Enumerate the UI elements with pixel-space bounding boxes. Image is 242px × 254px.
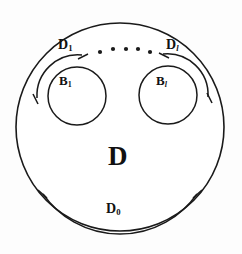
label-hole-right-base: B [156, 73, 165, 88]
label-outer-boundary-base: D [106, 201, 116, 216]
ellipsis-dot [124, 47, 128, 51]
figure-canvas: D1 Dl B1 Bl D D0 [0, 0, 242, 254]
hole-circle-left [48, 67, 106, 125]
diagram-svg [0, 0, 242, 254]
label-hole-right-sub: l [165, 80, 167, 89]
label-boundary-left-base: D [58, 37, 68, 52]
label-outer-boundary-sub: 0 [116, 207, 120, 217]
label-boundary-left: D1 [58, 38, 72, 53]
label-boundary-right-base: D [166, 37, 176, 52]
hole-circle-right [139, 66, 197, 124]
label-boundary-left-sub: 1 [68, 43, 72, 53]
ellipsis-dot [98, 50, 102, 54]
ellipsis-dot [148, 50, 152, 54]
label-outer-boundary: D0 [106, 202, 120, 217]
ellipsis-dot [136, 47, 140, 51]
label-hole-left-base: B [59, 73, 68, 88]
label-hole-left: B1 [59, 74, 72, 89]
label-outer-domain: D [108, 143, 128, 170]
ellipsis-dot [111, 47, 115, 51]
label-hole-left-sub: 1 [68, 80, 72, 89]
label-boundary-right-sub: l [176, 43, 178, 53]
label-boundary-right: Dl [166, 38, 179, 53]
label-hole-right: Bl [156, 74, 167, 89]
